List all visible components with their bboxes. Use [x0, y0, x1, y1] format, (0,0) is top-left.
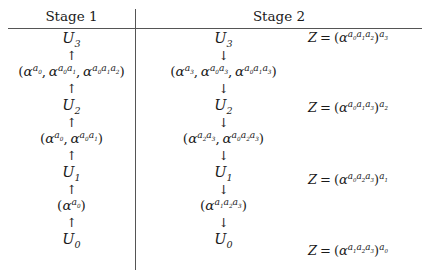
column-headers: Stage 1 Stage 2: [0, 6, 430, 28]
stage1-arrow-up-2: ↑: [66, 80, 76, 96]
stage2-arrow-down-1: ↓: [218, 47, 228, 63]
stage1-tuple-1: (αa0): [57, 197, 86, 214]
stage2-arrow-down-5: ↓: [218, 181, 228, 197]
stage2-tuple-2: (αa2a3, αa0a2a3): [183, 130, 264, 147]
stage1-arrow-up-3: ↑: [66, 114, 76, 130]
stage1-arrow-up-5: ↑: [66, 181, 76, 197]
stage1-tuple-2: (αa0, αa0a1): [40, 130, 103, 147]
stage-2-chain: U3 ↓ (αa3, αa0a3, αa0a1a3) ↓ U2 ↓ (αa2a3…: [136, 29, 311, 248]
z-equation-u1: Z=(αa0a2a3)a1: [308, 172, 422, 187]
stage2-arrow-down-2: ↓: [218, 80, 228, 96]
z-equation-u3: Z=(αa0a1a2)a3: [308, 30, 422, 45]
stage-1-chain: U3 ↑ (αa0, αa0a1, αa0a1a2) ↑ U2 ↑ (αa0, …: [8, 29, 135, 248]
stage2-node-u1: U1: [214, 163, 232, 181]
stage1-node-u3: U3: [62, 29, 80, 47]
stage1-node-u2: U2: [62, 96, 80, 114]
stage2-node-u0: U0: [214, 230, 232, 248]
stage1-arrow-up-6: ↑: [66, 214, 76, 230]
z-equation-u0: Z=(αa1a2a3)a0: [308, 243, 422, 258]
stage1-arrow-up-4: ↑: [66, 147, 76, 163]
stage2-arrow-down-4: ↓: [218, 147, 228, 163]
stage-2-header: Stage 2: [136, 6, 422, 26]
stage-2-body: U3 ↓ (αa3, αa0a3, αa0a1a3) ↓ U2 ↓ (αa2a3…: [136, 29, 422, 277]
stage2-node-u2: U2: [214, 96, 232, 114]
z-equation-u2: Z=(αa0a1a3)a2: [308, 100, 422, 115]
stage-1-body: U3 ↑ (αa0, αa0a1, αa0a1a2) ↑ U2 ↑ (αa0, …: [8, 29, 135, 277]
derivation-figure: Stage 1 Stage 2 U3 ↑ (αa0, αa0a1, αa0a1a…: [0, 0, 430, 279]
stage2-arrow-down-3: ↓: [218, 114, 228, 130]
stage2-tuple-3: (αa3, αa0a3, αa0a1a3): [170, 63, 277, 80]
stage1-arrow-up-1: ↑: [66, 47, 76, 63]
stage1-node-u0: U0: [62, 230, 80, 248]
stage2-tuple-1: (αa1a2a3): [200, 197, 247, 214]
stage1-tuple-3: (αa0, αa0a1, αa0a1a2): [18, 63, 125, 80]
stage-1-header: Stage 1: [8, 6, 135, 26]
stage2-arrow-down-6: ↓: [218, 214, 228, 230]
stage2-node-u3: U3: [214, 29, 232, 47]
stage1-node-u1: U1: [62, 163, 80, 181]
